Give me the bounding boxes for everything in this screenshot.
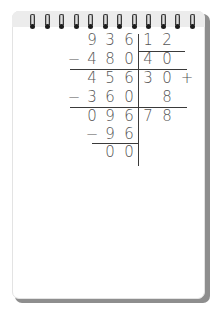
spiral-ring-icon: [59, 14, 64, 29]
partial-quotient-digit: 0: [159, 70, 175, 87]
divisor-digit: 1: [140, 32, 156, 49]
minus-sign: −: [66, 51, 82, 68]
subtrahend-digit: 8: [102, 51, 118, 68]
partial-quotient-digit: 8: [159, 89, 175, 106]
subtrahend-digit: 9: [102, 126, 118, 143]
final-remainder-digit: 0: [102, 144, 118, 161]
spiral-ring-icon: [117, 14, 122, 29]
subtraction-line: [70, 107, 187, 108]
spiral-ring-icon: [45, 14, 50, 29]
spiral-ring-icon: [103, 14, 108, 29]
subtraction-line: [70, 69, 187, 70]
dividend-digit: 6: [121, 32, 137, 49]
remainder-digit: 4: [84, 70, 100, 87]
partial-quotient-digit: 4: [140, 51, 156, 68]
remainder-digit: 9: [102, 108, 118, 125]
spiral-ring-icon: [30, 14, 35, 29]
partial-quotient-digit: 0: [159, 51, 175, 68]
plus-sign: +: [179, 70, 195, 87]
quotient-digit: 7: [140, 108, 156, 125]
remainder-digit: 5: [102, 70, 118, 87]
remainder-digit: 6: [121, 108, 137, 125]
dividend-digit: 3: [102, 32, 118, 49]
subtrahend-digit: 6: [102, 89, 118, 106]
subtrahend-digit: 0: [121, 51, 137, 68]
partial-quotient-digit: 3: [140, 70, 156, 87]
division-bar-vertical: [138, 34, 139, 166]
subtraction-line: [92, 143, 138, 144]
spiral-ring-icon: [146, 14, 151, 29]
remainder-digit: 0: [84, 108, 100, 125]
subtrahend-digit: 3: [84, 89, 100, 106]
dividend-digit: 9: [84, 32, 100, 49]
spiral-ring-icon: [74, 14, 79, 29]
spiral-ring-icon: [161, 14, 166, 29]
subtrahend-digit: 6: [121, 126, 137, 143]
spiral-ring-icon: [190, 14, 195, 29]
minus-sign: −: [84, 126, 100, 143]
notepad-scene: 9 3 6 1 2 − 4 8 0 4 0 4 5 6 3 0 + − 3 6 …: [0, 0, 215, 310]
spiral-ring-icon: [175, 14, 180, 29]
subtrahend-digit: 0: [121, 89, 137, 106]
spiral-ring-icon: [88, 14, 93, 29]
minus-sign: −: [66, 89, 82, 106]
spiral-ring-icon: [132, 14, 137, 29]
divisor-underline: [138, 51, 185, 52]
divisor-digit: 2: [159, 32, 175, 49]
subtrahend-digit: 4: [84, 51, 100, 68]
final-remainder-digit: 0: [121, 144, 137, 161]
remainder-digit: 6: [121, 70, 137, 87]
quotient-digit: 8: [159, 108, 175, 125]
